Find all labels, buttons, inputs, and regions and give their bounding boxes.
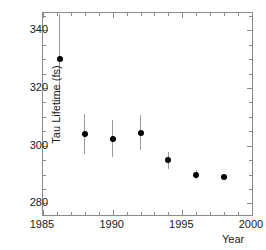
x-tick-label-1990: 1990 xyxy=(92,219,132,230)
data-point-1992 xyxy=(138,130,144,136)
y-minor-tick xyxy=(43,59,46,60)
x-minor-tick-top xyxy=(99,13,100,16)
y-tick-label-340: 340 xyxy=(30,24,48,35)
x-minor-tick-top xyxy=(154,13,155,16)
data-point-1998 xyxy=(221,174,227,180)
x-minor-tick xyxy=(127,212,128,215)
y-tick-right-320 xyxy=(247,88,252,89)
y-tick-label-280: 280 xyxy=(30,197,48,208)
x-minor-tick-top xyxy=(85,13,86,16)
y-tick-label-320: 320 xyxy=(30,82,48,93)
x-tick-label-1995: 1995 xyxy=(161,219,201,230)
x-minor-tick-top xyxy=(141,13,142,16)
x-minor-tick-top xyxy=(168,13,169,16)
x-minor-tick xyxy=(168,212,169,215)
x-minor-tick-top xyxy=(127,13,128,16)
x-tick-top-1990 xyxy=(113,13,114,18)
data-point-1996 xyxy=(193,172,199,178)
y-tick-right-280 xyxy=(247,203,252,204)
y-minor-tick-right xyxy=(249,131,252,132)
x-tick-label-2000: 2000 xyxy=(231,219,266,230)
y-minor-tick-right xyxy=(249,59,252,60)
y-minor-tick xyxy=(43,45,46,46)
y-minor-tick-right xyxy=(249,74,252,75)
data-point-1990 xyxy=(110,136,116,142)
plot-area xyxy=(43,13,252,215)
x-minor-tick xyxy=(71,212,72,215)
y-minor-tick xyxy=(43,131,46,132)
y-minor-tick xyxy=(43,175,46,176)
y-minor-tick-right xyxy=(249,102,252,103)
x-tick-top-1995 xyxy=(182,13,183,18)
y-minor-tick-right xyxy=(249,175,252,176)
x-minor-tick xyxy=(57,212,58,215)
y-minor-tick xyxy=(43,74,46,75)
plot-frame: Tau Lifetime (fs) xyxy=(42,12,253,216)
data-point-1988 xyxy=(82,131,88,137)
y-minor-tick xyxy=(43,189,46,190)
x-minor-tick-top xyxy=(196,13,197,16)
x-minor-tick xyxy=(224,212,225,215)
x-tick-label-1985: 1985 xyxy=(22,219,62,230)
x-minor-tick xyxy=(238,212,239,215)
x-minor-tick-top xyxy=(71,13,72,16)
x-tick-2000 xyxy=(252,210,253,215)
x-minor-tick xyxy=(196,212,197,215)
x-minor-tick-top xyxy=(57,13,58,16)
x-tick-top-2000 xyxy=(252,13,253,18)
x-minor-tick-top xyxy=(210,13,211,16)
x-tick-1995 xyxy=(182,210,183,215)
data-point-1994 xyxy=(165,157,171,163)
chart-container: Tau Lifetime (fs) 280300320340 198519901… xyxy=(0,0,266,250)
x-minor-tick xyxy=(99,212,100,215)
y-tick-right-300 xyxy=(247,146,252,147)
x-minor-tick-top xyxy=(238,13,239,16)
x-tick-1985 xyxy=(43,210,44,215)
y-minor-tick-right xyxy=(249,160,252,161)
x-minor-tick xyxy=(154,212,155,215)
y-tick-label-300: 300 xyxy=(30,140,48,151)
x-minor-tick-top xyxy=(224,13,225,16)
y-minor-tick xyxy=(43,160,46,161)
x-tick-1990 xyxy=(113,210,114,215)
x-minor-tick xyxy=(141,212,142,215)
y-minor-tick-right xyxy=(249,189,252,190)
y-axis-title: Tau Lifetime (fs) xyxy=(51,40,62,170)
y-minor-tick-right xyxy=(249,117,252,118)
x-minor-tick xyxy=(210,212,211,215)
y-minor-tick-right xyxy=(249,45,252,46)
y-minor-tick xyxy=(43,102,46,103)
y-minor-tick xyxy=(43,117,46,118)
x-axis-title: Year xyxy=(222,234,244,245)
x-minor-tick xyxy=(85,212,86,215)
y-tick-right-340 xyxy=(247,30,252,31)
x-tick-top-1985 xyxy=(43,13,44,18)
